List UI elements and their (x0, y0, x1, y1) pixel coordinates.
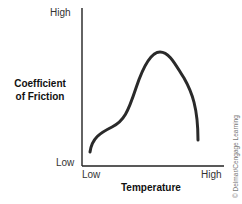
x-axis-title: Temperature (121, 182, 181, 193)
y-axis-title-line1: Coefficient (2, 77, 78, 90)
copyright-credit: © Delmar/Cengage Learning (232, 115, 239, 198)
y-tick-low: Low (56, 157, 74, 168)
friction-curve (90, 52, 198, 152)
y-axis-title: Coefficient of Friction (2, 77, 78, 103)
x-tick-low: Low (82, 169, 100, 180)
y-axis-title-line2: of Friction (2, 90, 78, 103)
y-tick-high: High (50, 7, 71, 18)
x-tick-high: High (201, 169, 222, 180)
